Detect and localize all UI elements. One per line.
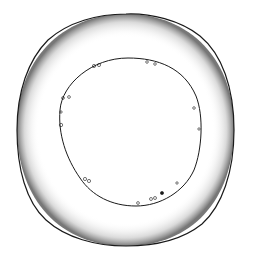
- ring-illustration: [0, 0, 253, 257]
